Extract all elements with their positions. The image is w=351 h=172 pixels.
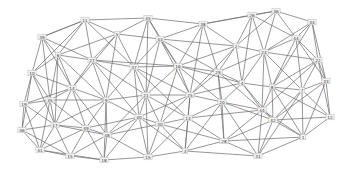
graph-edge [42,37,50,100]
graph-node: 2 [233,43,239,49]
node-label: 45 [145,16,151,21]
node-label: 34 [309,20,315,25]
node-label: 22 [315,58,321,63]
graph-edge [302,90,303,137]
node-label: 9 [105,98,108,103]
graph-edge [134,67,139,117]
graph-edge [72,88,86,128]
node-label: 44 [259,108,265,113]
graph-edge [224,110,262,141]
graph-edge [190,46,236,95]
graph-edge [262,87,272,110]
node-label: 36 [273,9,279,14]
graph-node: 3 [182,148,188,154]
node-label: 3 [184,149,187,154]
node-label: 48 [104,133,110,138]
graph-edge [178,66,190,95]
graph-node: 28 [220,138,228,144]
graph-node: 20 [218,99,226,105]
graph-edge [104,157,148,160]
graph-node: 16 [174,63,182,69]
node-label: 30 [157,122,163,127]
graph-node: 6 [55,52,61,58]
graph-edge [185,151,258,156]
graph-edge [106,100,139,117]
graph-node: 41 [36,147,44,153]
graph-edge [273,120,303,137]
graph-node: 46 [18,127,26,133]
graph-edge [70,156,104,160]
graph-edge [55,125,86,128]
graph-node: 36 [272,8,280,14]
graph-node: 15 [66,153,74,159]
graph-node: 44 [292,35,300,41]
node-label: 26 [249,13,255,18]
graph-node: 34 [308,19,316,25]
node-label: 33 [323,79,329,84]
graph-edge [55,55,58,125]
node-label: 43 [157,37,163,42]
graph-node: 31 [254,153,262,159]
node-label: 21 [143,93,149,98]
graph-edge [242,83,272,87]
node-label: 19 [21,102,27,107]
graph-node: 11 [81,17,89,23]
graph-edge [146,95,160,124]
node-label: 41 [37,148,43,153]
node-label: 24 [261,50,267,55]
graph-edge [160,39,236,46]
node-label: 17 [52,123,58,128]
node-label: 6 [57,53,60,58]
graph-edge [70,135,107,156]
graph-edge [272,87,273,120]
graph-edge [276,11,312,22]
graph-node: 39 [38,34,46,40]
graph-edge [185,102,222,151]
graph-edge [24,104,40,150]
node-label: 13 [185,116,191,121]
graph-node: 14 [68,85,76,91]
graph-edge [92,60,106,100]
node-label: 2 [235,44,238,49]
graph-edge [258,110,262,156]
graph-node: 15 [144,154,152,160]
graph-edge [86,100,106,128]
node-label: 14 [69,86,75,91]
graph-edge [107,124,160,135]
graph-edge [160,39,178,66]
graph-edge [318,60,330,117]
graph-node: 45 [144,15,152,21]
graph-edge [72,88,106,100]
node-label: 42 [270,118,276,123]
graph-edge [55,125,107,135]
graph-edge [134,66,178,67]
node-label: 15 [67,154,73,159]
graph-node: 13 [184,115,192,121]
node-label: 20 [219,100,225,105]
graph-edge [188,102,222,118]
node-label: 25 [187,93,193,98]
graph-node: 25 [186,92,194,98]
graph-node: 24 [260,49,268,55]
graph-edge [160,124,224,141]
graph-edge [312,22,318,60]
graph-node: 19 [20,101,28,107]
node-label: 38 [200,22,206,27]
graph-node: 30 [156,121,164,127]
graph-edge [148,18,203,24]
graph-edge [22,130,70,156]
node-label: 16 [175,64,181,69]
graph-edge [106,95,146,100]
graph-edge [50,100,55,125]
graph-node: 17 [51,122,59,128]
graph-edge [55,88,72,125]
graph-edge [178,66,242,83]
node-label: 18 [101,158,107,163]
node-label: 4 [241,81,244,86]
graph-edge [264,52,272,87]
node-label: 31 [255,154,261,159]
graph-node: 26 [248,12,256,18]
graph-node: 42 [269,117,277,123]
graph-edge [22,125,55,130]
graph-node: 21 [142,92,150,98]
